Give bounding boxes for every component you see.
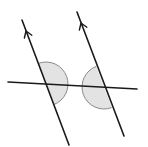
right-parallel-line — [77, 12, 124, 136]
parallel-lines-diagram — [0, 0, 148, 147]
transversal-line — [8, 82, 137, 89]
diagram-canvas — [0, 0, 148, 147]
